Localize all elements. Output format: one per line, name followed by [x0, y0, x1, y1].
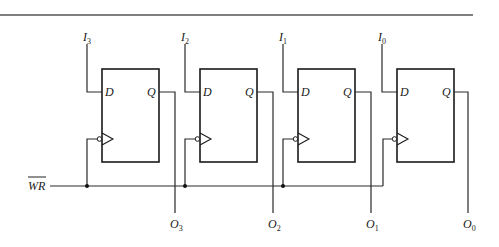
clock-bubble-icon — [195, 137, 200, 142]
q-pin-label: Q — [343, 85, 352, 99]
d-input-wire — [283, 44, 298, 92]
flip-flop-3: I3 D Q O3 — [82, 30, 183, 233]
flip-flop-box — [102, 69, 159, 162]
wr-signal: WR — [28, 177, 383, 193]
junction-dot — [281, 184, 285, 188]
flip-flop-box — [200, 69, 257, 162]
clock-wire — [87, 139, 97, 186]
junction-dot — [85, 184, 89, 188]
clock-triangle-icon — [298, 133, 309, 145]
input-label-i2: I2 — [180, 30, 189, 46]
d-pin-label: D — [104, 85, 114, 99]
clock-bubble-icon — [97, 137, 102, 142]
q-output-wire — [257, 92, 273, 213]
clock-bubble-icon — [392, 137, 397, 142]
wr-label: WR — [28, 179, 46, 193]
register-diagram: WR I3 D Q O3 I2 D Q O2 I1 D Q — [0, 0, 499, 247]
flip-flop-2: I2 D Q O2 — [180, 30, 281, 233]
clock-triangle-icon — [102, 133, 113, 145]
q-pin-label: Q — [147, 85, 156, 99]
clock-wire — [185, 139, 195, 186]
clock-wire — [383, 139, 392, 186]
flip-flop-0: I0 D Q O0 — [377, 30, 476, 233]
input-label-i3: I3 — [82, 30, 91, 46]
d-input-wire — [185, 44, 200, 92]
q-output-wire — [159, 92, 175, 213]
input-label-i1: I1 — [278, 30, 287, 46]
flip-flop-box — [397, 69, 454, 162]
clock-triangle-icon — [397, 133, 408, 145]
output-label-o0: O0 — [463, 217, 476, 233]
flip-flop-box — [298, 69, 355, 162]
clock-triangle-icon — [200, 133, 211, 145]
output-label-o1: O1 — [366, 217, 379, 233]
clock-bubble-icon — [293, 137, 298, 142]
q-pin-label: Q — [442, 85, 451, 99]
flip-flop-1: I1 D Q O1 — [278, 30, 379, 233]
d-pin-label: D — [202, 85, 212, 99]
d-input-wire — [382, 44, 397, 92]
q-output-wire — [454, 92, 468, 213]
d-pin-label: D — [399, 85, 409, 99]
junction-dot — [183, 184, 187, 188]
output-label-o3: O3 — [170, 217, 183, 233]
d-pin-label: D — [300, 85, 310, 99]
clock-wire — [283, 139, 293, 186]
q-output-wire — [355, 92, 371, 213]
input-label-i0: I0 — [377, 30, 386, 46]
d-input-wire — [87, 44, 102, 92]
q-pin-label: Q — [245, 85, 254, 99]
output-label-o2: O2 — [268, 217, 281, 233]
